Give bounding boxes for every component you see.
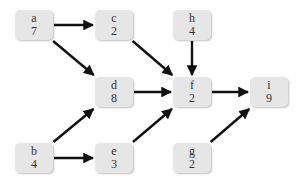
node-h: h4: [173, 10, 211, 40]
node-d: d8: [95, 77, 133, 107]
edge-group: [53, 25, 249, 158]
node-value: 2: [111, 25, 117, 38]
node-a: a7: [15, 10, 53, 40]
node-g: g2: [173, 143, 211, 173]
node-value: 4: [31, 158, 37, 171]
node-f: f2: [173, 77, 211, 107]
node-value: 8: [111, 92, 117, 105]
node-value: 7: [31, 25, 37, 38]
node-i: i9: [250, 77, 288, 107]
node-e: e3: [95, 143, 133, 173]
edge-a-to-d: [53, 41, 94, 75]
edge-b-to-d: [53, 109, 93, 142]
node-value: 4: [189, 25, 195, 38]
node-value: 2: [189, 92, 195, 105]
node-value: 3: [111, 158, 117, 171]
edge-e-to-f: [133, 109, 172, 142]
node-value: 2: [189, 158, 195, 171]
node-b: b4: [15, 143, 53, 173]
node-c: c2: [95, 10, 133, 40]
edge-c-to-f: [133, 41, 173, 75]
node-value: 9: [266, 92, 272, 105]
edge-g-to-i: [211, 109, 250, 142]
